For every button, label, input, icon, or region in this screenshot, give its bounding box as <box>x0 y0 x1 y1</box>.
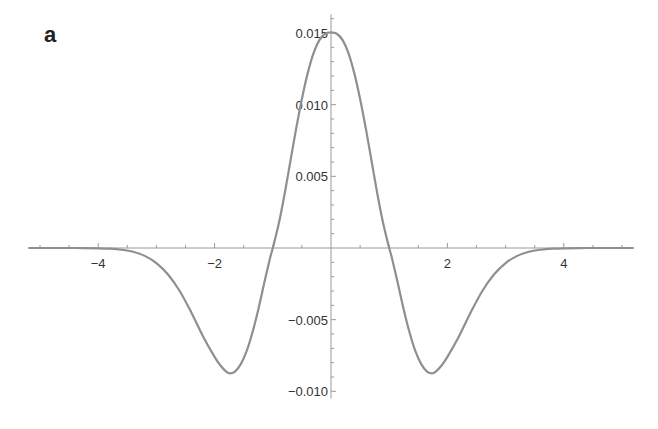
y-tick-label: 0.015 <box>295 26 328 41</box>
x-tick-label: −4 <box>91 256 106 271</box>
chart-container: a −4−2240.0150.0100.005−0.005−0.010 <box>0 0 658 429</box>
x-tick-label: −2 <box>207 256 222 271</box>
line-chart: −4−2240.0150.0100.005−0.005−0.010 <box>0 0 658 429</box>
y-tick-label: −0.005 <box>288 313 328 328</box>
x-tick-label: 4 <box>560 256 567 271</box>
y-tick-label: 0.005 <box>295 169 328 184</box>
x-tick-label: 2 <box>444 256 451 271</box>
y-tick-label: −0.010 <box>288 384 328 399</box>
